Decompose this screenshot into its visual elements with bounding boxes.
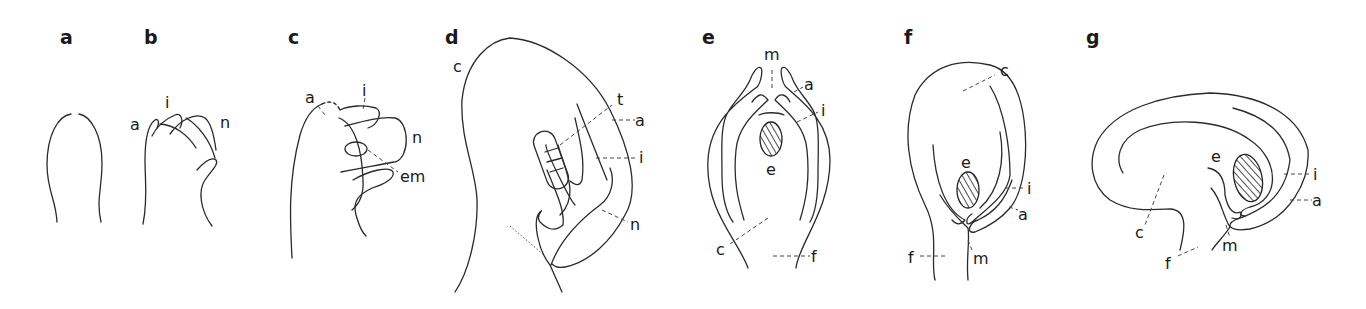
label-a: a bbox=[804, 75, 814, 94]
label-e: e bbox=[961, 153, 971, 172]
label-n: n bbox=[630, 215, 640, 234]
ovule-development-figure: a b a i n c a i n em d bbox=[0, 0, 1366, 309]
panel-a: a bbox=[47, 26, 102, 222]
panel-letter: g bbox=[1086, 26, 1100, 48]
label-n: n bbox=[412, 128, 422, 147]
label-i: i bbox=[639, 148, 643, 167]
label-m: m bbox=[764, 45, 780, 64]
label-m: m bbox=[1222, 236, 1238, 255]
label-f: f bbox=[811, 247, 817, 266]
panel-b: b bbox=[143, 26, 217, 226]
panel-letter: d bbox=[445, 26, 459, 48]
label-i: i bbox=[1027, 179, 1031, 198]
label-a: a bbox=[1018, 205, 1028, 224]
label-em: em bbox=[400, 167, 425, 186]
label-t: t bbox=[617, 90, 623, 109]
label-c: c bbox=[716, 240, 725, 259]
label-n: n bbox=[220, 113, 230, 132]
panel-letter: f bbox=[904, 26, 913, 48]
label-f: f bbox=[1165, 254, 1171, 273]
panel-letter: c bbox=[288, 26, 299, 48]
label-i: i bbox=[821, 101, 825, 120]
label-a: a bbox=[305, 88, 315, 107]
panel-d: d bbox=[445, 26, 635, 292]
label-c: c bbox=[453, 57, 462, 76]
label-c: c bbox=[1135, 223, 1144, 242]
label-a: a bbox=[635, 111, 645, 130]
label-a: a bbox=[1312, 191, 1322, 210]
label-e: e bbox=[1211, 147, 1221, 166]
label-e: e bbox=[766, 160, 776, 179]
label-m: m bbox=[973, 249, 989, 268]
label-f: f bbox=[908, 248, 914, 267]
label-i: i bbox=[165, 93, 169, 112]
panel-letter: a bbox=[60, 26, 73, 48]
label-i: i bbox=[362, 81, 366, 100]
panel-c: c bbox=[288, 26, 406, 258]
panel-g: g bbox=[1086, 26, 1312, 256]
panel-letter: e bbox=[702, 26, 715, 48]
label-c: c bbox=[1000, 61, 1009, 80]
panel-letter: b bbox=[144, 26, 158, 48]
label-i: i bbox=[1313, 165, 1317, 184]
label-a: a bbox=[130, 115, 140, 134]
